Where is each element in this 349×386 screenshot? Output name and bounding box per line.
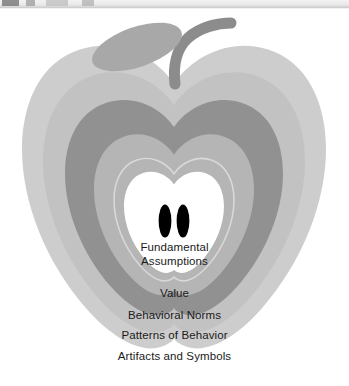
toolbar-icon-fragment-2	[26, 0, 35, 6]
seed-icon-left	[159, 205, 172, 238]
toolbar-icon-fragment-1	[2, 0, 19, 6]
seed-icon-right	[177, 205, 190, 238]
cut-off-toolbar-strip	[0, 0, 349, 9]
apple-culture-diagram	[0, 9, 349, 386]
toolbar-icon-fragment-4	[82, 0, 94, 6]
apple-diagram-svg	[0, 9, 349, 386]
toolbar-divider	[0, 7, 349, 8]
toolbar-icon-fragment-3	[46, 0, 68, 6]
